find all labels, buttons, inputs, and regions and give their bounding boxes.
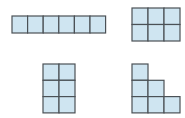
unit-square: [148, 25, 164, 42]
unit-square: [43, 64, 59, 80]
shape-staircase: [132, 64, 180, 113]
unit-square: [148, 97, 164, 113]
unit-square: [164, 97, 180, 113]
unit-square: [148, 8, 164, 25]
shape-grid-2x3: [132, 8, 180, 41]
unit-square: [164, 8, 180, 25]
unit-square: [90, 16, 106, 33]
unit-square: [132, 25, 148, 42]
unit-square: [148, 80, 164, 96]
unit-square: [28, 16, 44, 33]
shape-grid-3x2: [43, 64, 75, 113]
unit-square: [43, 16, 59, 33]
unit-square: [59, 97, 75, 113]
unit-square: [59, 64, 75, 80]
unit-square: [132, 80, 148, 96]
unit-square: [132, 8, 148, 25]
diagram-canvas: [0, 0, 185, 118]
unit-square: [12, 16, 28, 33]
unit-square: [59, 80, 75, 96]
unit-square: [43, 97, 59, 113]
unit-square: [43, 80, 59, 96]
unit-square: [132, 97, 148, 113]
unit-square: [132, 64, 148, 80]
unit-square: [59, 16, 75, 33]
unit-square: [74, 16, 90, 33]
unit-square: [164, 25, 180, 42]
shape-row-1x6: [12, 16, 106, 33]
